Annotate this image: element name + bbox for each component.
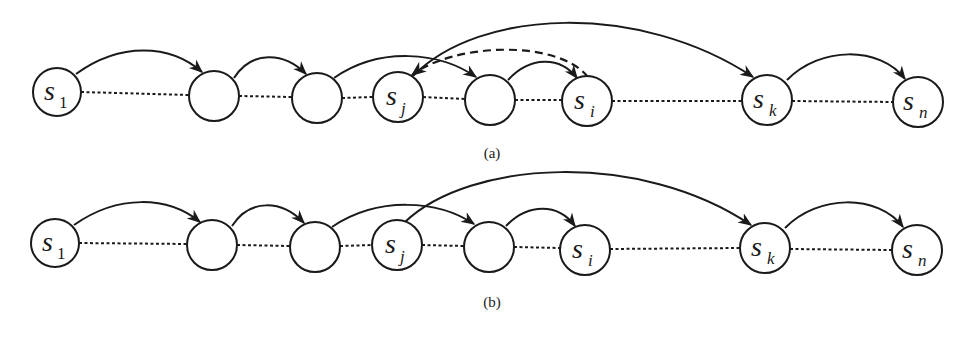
node-sn-b: s n [892, 225, 942, 275]
caption-b: (b) [483, 294, 501, 311]
arc-sk-sn [787, 54, 905, 80]
node-sn-a: s n [893, 77, 943, 127]
link-n2-n3 [237, 245, 290, 246]
link-s1-n2 [81, 92, 189, 95]
node-label: s [751, 231, 762, 262]
node-subscript: i [588, 251, 593, 270]
node-subscript: i [590, 102, 595, 121]
node-empty-5-b [464, 222, 514, 272]
arc-sj-sk [405, 172, 751, 225]
node-si-a: s i [562, 76, 612, 126]
state-sequence-diagram: s 1 s j s i s k s n [0, 0, 971, 337]
arc-n5-si [508, 62, 577, 80]
link-n3-sj [342, 97, 373, 98]
link-sj-n5 [423, 97, 465, 99]
node-sj-b: s j [372, 220, 422, 270]
node-subscript: n [918, 251, 927, 270]
node-empty-2-a [189, 71, 239, 121]
node-label: s [753, 83, 764, 114]
node-subscript: 1 [57, 244, 66, 263]
node-subscript: j [398, 247, 405, 266]
link-sk-sn [790, 249, 892, 250]
link-si-sk [610, 248, 740, 249]
node-subscript: k [769, 101, 777, 120]
arc-n2-n3 [232, 205, 304, 226]
node-sj-a: s j [373, 72, 423, 122]
node-si-b: s i [560, 225, 610, 275]
node-subscript: 1 [59, 93, 68, 112]
arc-s1-n2 [74, 202, 200, 225]
node-label: s [385, 228, 396, 259]
node-subscript: k [767, 249, 775, 268]
node-label: s [44, 75, 55, 106]
arc-s1-n2 [76, 51, 202, 75]
node-label: s [42, 226, 53, 257]
node-empty-3-a [292, 73, 342, 123]
link-sk-sn [792, 101, 893, 102]
node-label: s [572, 233, 583, 264]
link-sj-n5 [422, 245, 464, 246]
panel-b: s 1 s j s i s k s n [31, 172, 942, 311]
node-empty-3-b [290, 222, 340, 272]
panel-a: s 1 s j s i s k s n [33, 23, 943, 162]
node-label: s [903, 85, 914, 116]
arc-n5-si [506, 209, 575, 226]
node-label: s [386, 80, 397, 111]
link-n3-sj [340, 245, 372, 246]
link-n2-n3 [239, 96, 292, 97]
node-sk-b: s k [740, 223, 790, 273]
node-s1-b: s 1 [31, 219, 79, 267]
node-empty-5-a [465, 75, 515, 125]
link-n5-si [514, 247, 560, 248]
arcs-b [74, 172, 903, 228]
arc-n2-n3 [234, 57, 306, 78]
node-sk-a: s k [742, 75, 792, 125]
node-subscript: j [399, 99, 406, 118]
arcs-a [76, 23, 905, 80]
caption-a: (a) [484, 145, 501, 162]
node-s1-a: s 1 [33, 68, 81, 116]
node-empty-2-b [187, 220, 237, 270]
dashed-arc-si-sj [412, 50, 588, 77]
node-label: s [902, 233, 913, 264]
arc-sk-sn [785, 202, 903, 228]
node-label: s [574, 84, 585, 115]
node-subscript: n [919, 103, 928, 122]
link-s1-n2 [79, 243, 187, 244]
